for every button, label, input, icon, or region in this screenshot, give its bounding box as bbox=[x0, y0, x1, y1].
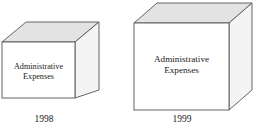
cube-1998-year-label: 1998 bbox=[14, 114, 74, 124]
cube-1998-front-face bbox=[2, 42, 75, 98]
cube-1999-year-label: 1999 bbox=[152, 114, 212, 124]
cube-1999-front-face bbox=[134, 23, 229, 110]
figure-canvas: Administrative Expenses 1998 Administrat… bbox=[0, 0, 257, 134]
cube-1998 bbox=[2, 22, 99, 98]
cube-1999 bbox=[134, 3, 252, 110]
